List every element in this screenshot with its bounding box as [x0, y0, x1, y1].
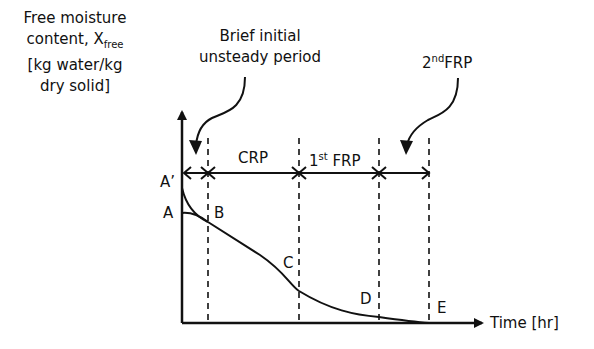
period-arrows	[184, 167, 429, 179]
y-label-line1: Free moisture	[0, 8, 150, 29]
initial-period-label: Brief initial unsteady period	[195, 26, 325, 68]
y-label-line3: [kg water/kg	[0, 55, 150, 76]
crp-label: CRP	[238, 148, 268, 169]
first-frp-label: 1st FRP	[309, 146, 361, 172]
y-label-line4: dry solid]	[0, 76, 150, 97]
second-frp-label: 2ndFRP	[422, 48, 472, 74]
point-e: E	[437, 298, 446, 319]
second-frp-pointer-arrow	[407, 78, 458, 145]
point-b: B	[214, 203, 224, 224]
point-c: C	[283, 253, 293, 274]
point-a-prime: A’	[160, 172, 175, 193]
point-a: A	[163, 203, 173, 224]
drying-curve	[208, 222, 429, 323]
initial-pointer-arrow	[196, 77, 245, 145]
y-axis-label: Free moisture content, Xfree [kg water/k…	[0, 8, 150, 97]
x-axis-label: Time [hr]	[490, 313, 559, 334]
curve-from-a-prime	[182, 188, 208, 222]
point-d: D	[360, 289, 372, 310]
y-label-line2: content, Xfree	[0, 29, 150, 55]
